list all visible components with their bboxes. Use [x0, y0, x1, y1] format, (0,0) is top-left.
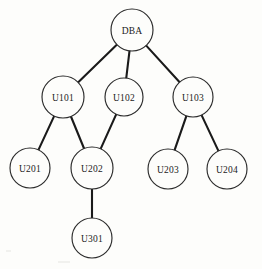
node-label: U201: [19, 164, 41, 174]
node-label: U301: [81, 234, 103, 244]
node-label: U101: [52, 93, 74, 103]
edge-layer: [38, 44, 218, 218]
graph-node-dba[interactable]: DBA: [111, 9, 153, 51]
graph-edge: [71, 116, 85, 149]
graph-node-u204[interactable]: U204: [207, 149, 247, 189]
scan-artifact: [58, 261, 70, 263]
authorization-graph-figure: DBAU101U102U103U201U202U203U204U301: [0, 0, 262, 269]
node-label: U202: [81, 164, 103, 174]
graph-node-u203[interactable]: U203: [148, 149, 188, 189]
node-label: U203: [157, 165, 179, 175]
node-label: U102: [113, 93, 135, 103]
graph-node-u103[interactable]: U103: [173, 77, 213, 117]
graph-edge: [146, 45, 180, 82]
node-label: DBA: [122, 26, 143, 36]
graph-edge: [78, 44, 118, 82]
graph-edge: [126, 50, 129, 78]
scan-artifact: [6, 250, 11, 252]
node-label: U204: [216, 165, 238, 175]
graph-canvas: DBAU101U102U103U201U202U203U204U301: [0, 0, 262, 269]
graph-node-u201[interactable]: U201: [10, 148, 50, 188]
graph-node-u202[interactable]: U202: [71, 147, 113, 189]
graph-edge: [201, 115, 218, 152]
graph-edge: [174, 115, 186, 150]
graph-edge: [100, 114, 116, 149]
node-label: U103: [182, 93, 204, 103]
graph-node-u301[interactable]: U301: [72, 218, 112, 258]
graph-node-u102[interactable]: U102: [105, 78, 143, 116]
graph-edge: [38, 116, 54, 151]
graph-node-u101[interactable]: U101: [42, 76, 84, 118]
